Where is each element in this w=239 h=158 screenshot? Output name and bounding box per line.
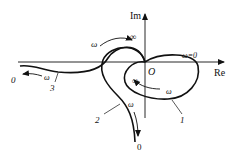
omega-top-label: ω <box>91 39 97 49</box>
leader-2 <box>104 104 120 114</box>
zero-bottom-label: 0 <box>137 142 142 152</box>
omega-curve3-label: ω <box>44 73 50 82</box>
arrow-top <box>100 38 132 46</box>
curve-1-label: 1 <box>180 115 185 125</box>
omega-zero-label: ω=0 <box>182 51 197 60</box>
infinity-top-label: ∞ <box>130 32 136 42</box>
imag-axis-label: Im <box>130 10 141 21</box>
real-axis-label: Re <box>214 67 226 78</box>
nyquist-diagram: Im Re O ω=0 ∞ ∞ ω ω ω ω 0 0 1 2 3 <box>0 0 239 158</box>
arrow-curve3 <box>23 74 42 76</box>
zero-left-label: 0 <box>11 75 16 85</box>
curve-3 <box>20 47 145 72</box>
omega-curve1-label: ω <box>166 87 172 96</box>
leader-3 <box>55 73 58 82</box>
curve-3-label: 3 <box>49 83 55 93</box>
curve-2-label: 2 <box>95 115 100 125</box>
infinity-inner-label: ∞ <box>132 76 138 86</box>
origin-label: O <box>148 66 155 77</box>
leader-1 <box>172 100 182 114</box>
omega-curve2-label: ω <box>128 100 134 109</box>
